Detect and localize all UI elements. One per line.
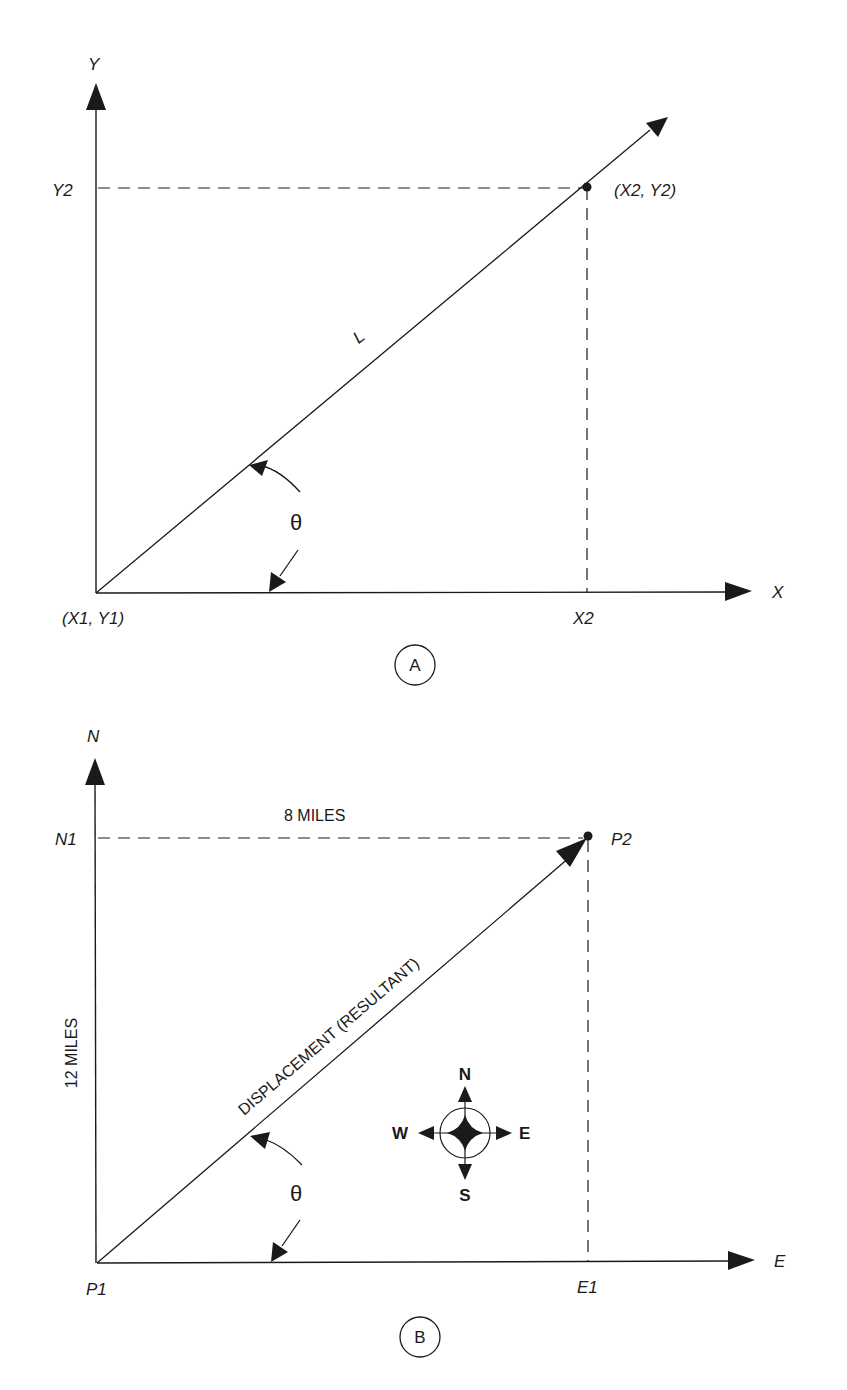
point-p2-label: P2	[611, 830, 632, 849]
compass-west-label: W	[392, 1124, 409, 1143]
angle-arrow-lower-icon	[269, 572, 286, 592]
point-x2-y2-label: (X2, Y2)	[614, 181, 676, 200]
angle-theta-label-a: θ	[290, 510, 302, 535]
compass-rose-icon: N S E W	[392, 1065, 530, 1205]
compass-east-arrow-icon	[496, 1126, 512, 1140]
x2-label: X2	[572, 609, 594, 628]
vector-l-arrow-icon	[646, 117, 668, 137]
n-axis	[85, 758, 105, 1263]
vertical-distance-label: 12 MILES	[63, 1018, 80, 1088]
panel-a: Y Y2 (X2, Y2) L θ (X1, Y1) X2 X A	[52, 55, 784, 685]
e-axis-label: E	[774, 1252, 786, 1271]
displacement-vector	[97, 838, 587, 1263]
e-axis-arrow-icon	[728, 1251, 755, 1270]
compass-west-arrow-icon	[418, 1126, 434, 1140]
y-axis-label: Y	[88, 55, 101, 74]
y-axis	[86, 83, 106, 593]
origin-x1-y1-label: (X1, Y1)	[62, 609, 124, 628]
displacement-vector-label: DISPLACEMENT (RESULTANT)	[235, 954, 422, 1118]
panel-a-label: A	[409, 656, 421, 675]
angle-theta-label-b: θ	[290, 1181, 302, 1206]
n-axis-arrow-icon	[85, 758, 105, 785]
origin-p1-label: P1	[86, 1280, 107, 1299]
e-axis	[97, 1251, 755, 1270]
point-x2-y2	[583, 183, 592, 192]
e1-label: E1	[577, 1278, 598, 1297]
x-axis-arrow-icon	[725, 582, 752, 601]
panel-b: N N1 8 MILES P2 12 MILES DISPLACEMENT (R…	[55, 727, 786, 1357]
y-axis-arrow-icon	[86, 83, 106, 110]
compass-south-label: S	[459, 1186, 470, 1205]
compass-north-arrow-icon	[458, 1086, 472, 1102]
n1-label: N1	[55, 830, 77, 849]
angle-arrow-upper-icon	[250, 1132, 270, 1149]
panel-b-badge: B	[400, 1317, 440, 1357]
n-axis-label: N	[87, 727, 100, 746]
line-l-label: L	[349, 327, 368, 348]
displacement-arrow-icon	[556, 838, 587, 867]
panel-a-badge: A	[395, 645, 435, 685]
x-axis-label: X	[771, 583, 784, 602]
compass-east-label: E	[519, 1124, 530, 1143]
compass-north-label: N	[459, 1065, 471, 1084]
compass-south-arrow-icon	[458, 1164, 472, 1180]
panel-b-label: B	[414, 1328, 425, 1347]
angle-arrow-lower-icon	[271, 1242, 288, 1262]
x-axis	[96, 582, 752, 601]
horizontal-distance-label: 8 MILES	[284, 807, 345, 824]
vector-diagram: Y Y2 (X2, Y2) L θ (X1, Y1) X2 X A	[0, 0, 847, 1390]
y2-label: Y2	[52, 181, 73, 200]
point-p2	[584, 832, 593, 841]
